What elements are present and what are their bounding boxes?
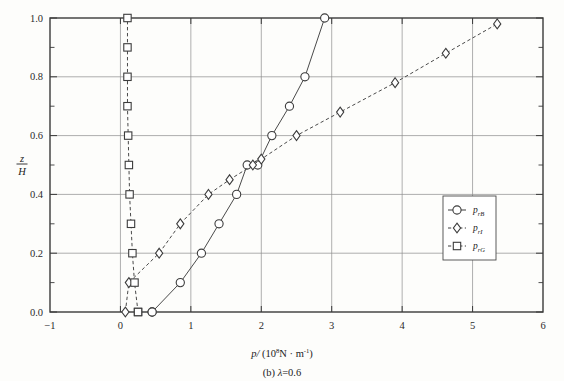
series-p_rI	[122, 19, 501, 317]
figure-container: −101234560.00.20.40.60.81.0zHp/ (108N · …	[0, 0, 564, 381]
data-point-square	[134, 308, 141, 315]
data-point-diamond	[442, 48, 449, 58]
data-point-square	[124, 73, 131, 80]
data-point-circle	[285, 102, 293, 110]
axis-ticks: −101234560.00.20.40.60.81.0	[30, 13, 546, 331]
data-point-circle	[301, 73, 309, 81]
svg-text:3: 3	[329, 320, 334, 331]
chart-plot-area: −101234560.00.20.40.60.81.0zHp/ (108N · …	[0, 0, 564, 381]
svg-text:1.0: 1.0	[30, 13, 43, 24]
series-line	[125, 24, 497, 312]
data-point-circle	[197, 249, 205, 257]
data-point-square	[127, 220, 134, 227]
plot-frame	[50, 18, 543, 312]
svg-text:(b) λ=0.6: (b) λ=0.6	[263, 367, 301, 379]
series-p_rB	[148, 14, 329, 316]
figure-caption: (b) λ=0.6	[263, 367, 301, 379]
data-point-diamond	[122, 307, 129, 317]
svg-text:0.4: 0.4	[30, 189, 44, 200]
y-axis-label: zH	[17, 153, 28, 178]
data-point-circle	[268, 132, 276, 140]
svg-text:0.0: 0.0	[30, 307, 43, 318]
data-point-square	[124, 44, 131, 51]
svg-text:2: 2	[259, 320, 264, 331]
series-p_rG	[124, 14, 142, 315]
data-point-diamond	[392, 78, 399, 88]
data-point-square	[453, 242, 460, 249]
data-point-square	[124, 132, 131, 139]
data-point-diamond	[156, 248, 163, 258]
svg-text:0.6: 0.6	[30, 130, 43, 141]
data-point-square	[124, 103, 131, 110]
svg-text:6: 6	[540, 320, 545, 331]
svg-text:H: H	[17, 166, 27, 177]
data-point-circle	[148, 308, 156, 316]
svg-text:z: z	[19, 153, 24, 164]
data-point-circle	[453, 206, 461, 214]
data-point-diamond	[293, 131, 300, 141]
svg-text:p/ (108N · m-1): p/ (108N · m-1)	[250, 347, 313, 360]
svg-text:1: 1	[188, 320, 193, 331]
gridlines	[50, 18, 543, 312]
data-point-diamond	[205, 190, 212, 200]
svg-text:0.8: 0.8	[30, 71, 43, 82]
data-point-diamond	[337, 107, 344, 117]
svg-text:−1: −1	[44, 320, 55, 331]
series-line	[152, 18, 325, 312]
data-point-square	[124, 14, 131, 21]
data-point-diamond	[226, 175, 233, 185]
data-point-circle	[176, 279, 184, 287]
data-point-circle	[233, 190, 241, 198]
x-axis-label: p/ (108N · m-1)	[250, 347, 313, 360]
legend: prBprIprG	[443, 196, 496, 260]
data-point-square	[126, 191, 133, 198]
data-point-circle	[321, 14, 329, 22]
svg-text:0: 0	[118, 320, 123, 331]
data-point-square	[125, 161, 132, 168]
data-point-diamond	[494, 19, 501, 29]
data-point-square	[131, 279, 138, 286]
svg-text:4: 4	[400, 320, 406, 331]
chart-svg: −101234560.00.20.40.60.81.0zHp/ (108N · …	[0, 0, 564, 381]
data-point-square	[129, 250, 136, 257]
data-point-circle	[215, 220, 223, 228]
svg-text:5: 5	[470, 320, 475, 331]
svg-text:0.2: 0.2	[30, 248, 43, 259]
